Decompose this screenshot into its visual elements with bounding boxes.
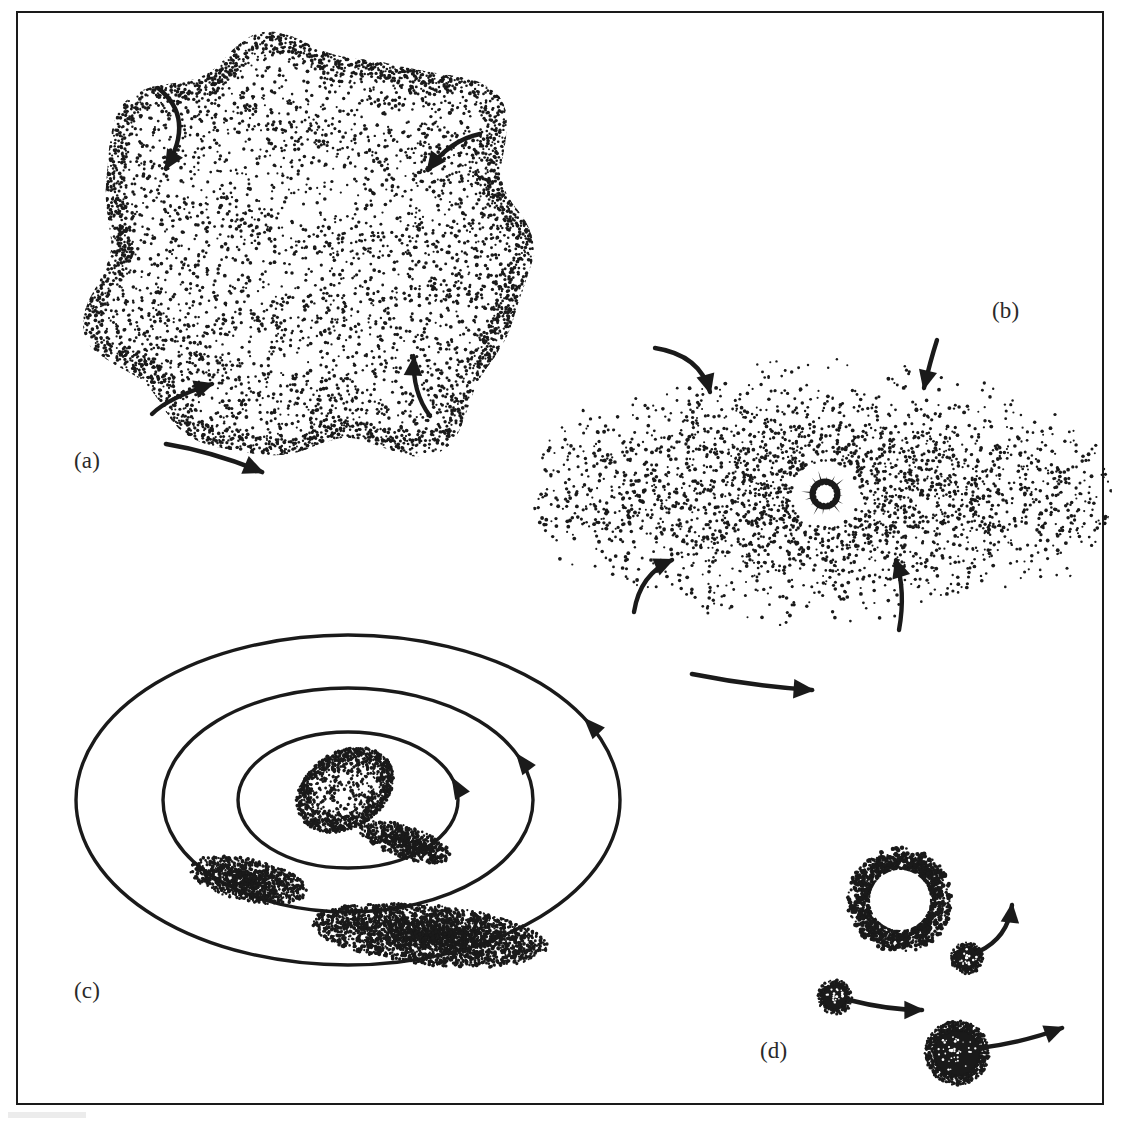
planet-large-lower-speckle bbox=[954, 1057, 956, 1059]
planet-small-left bbox=[817, 978, 854, 1015]
planet-small-left-speckle bbox=[833, 992, 836, 995]
planet-large-lower-speckle bbox=[937, 1048, 939, 1050]
panel-b-protoplanetary-disk bbox=[533, 340, 1113, 698]
planet-small-left-speckle bbox=[834, 996, 836, 998]
planet-large-lower-speckle bbox=[968, 1047, 970, 1049]
planet-small-upper-speckle bbox=[975, 956, 978, 959]
planet-large-lower-speckle bbox=[962, 1041, 963, 1042]
planet-small-upper-speckle bbox=[972, 959, 975, 962]
planet-large-lower-speckle bbox=[948, 1060, 949, 1061]
panel-label-d: (d) bbox=[760, 1038, 787, 1064]
planet-large-lower-speckle bbox=[955, 1061, 957, 1063]
planet-large-lower-speckle bbox=[965, 1065, 967, 1067]
planet-large-lower-speckle bbox=[944, 1053, 946, 1055]
panel-a-protostellar-cloud bbox=[72, 19, 542, 474]
panel-label-b: (b) bbox=[992, 298, 1019, 324]
planet-large-lower-speckle bbox=[952, 1036, 954, 1038]
planet-small-upper-speckle bbox=[967, 961, 969, 963]
planet-large-lower-speckle bbox=[938, 1053, 940, 1055]
planet-large-lower bbox=[924, 1019, 991, 1086]
planet-large-lower-speckle bbox=[942, 1058, 945, 1061]
planet-motion-arrow-lower-head bbox=[1042, 1026, 1064, 1043]
figure-root: (a) (b) (c) (d) bbox=[0, 0, 1121, 1125]
planet-small-left-speckle bbox=[832, 997, 834, 999]
planet-large-lower-speckle bbox=[956, 1052, 958, 1054]
planet-small-left-speckle bbox=[832, 999, 834, 1001]
page-edge-smudge bbox=[8, 1112, 86, 1118]
planet-large-lower-speckle bbox=[957, 1056, 959, 1058]
planet-large-lower-speckle bbox=[968, 1051, 970, 1053]
rotation-arrow-bottom-right bbox=[404, 355, 430, 416]
planet-large-lower-speckle bbox=[969, 1041, 971, 1043]
planet-small-left-speckle bbox=[838, 998, 840, 1000]
planet-large-lower-speckle bbox=[955, 1038, 957, 1040]
planet-large-lower-speckle bbox=[950, 1068, 951, 1069]
infall-arrow-top-right-head bbox=[919, 369, 937, 391]
planet-small-left-speckle bbox=[826, 994, 828, 996]
planet-small-left-speckle bbox=[841, 989, 843, 991]
planet-large-lower-speckle bbox=[953, 1048, 956, 1051]
planet-motion-arrow-left-head bbox=[904, 1001, 924, 1019]
planet-small-left-speckle bbox=[837, 989, 839, 991]
panel-label-c: (c) bbox=[74, 978, 100, 1004]
planet-large-lower-speckle bbox=[957, 1039, 960, 1042]
protostar bbox=[801, 471, 844, 515]
planet-small-left-speckle bbox=[834, 1001, 836, 1003]
planet-large-lower-speckle bbox=[950, 1050, 953, 1053]
planet-large-lower-speckle bbox=[942, 1039, 944, 1041]
young-star-with-dust-ring bbox=[846, 846, 953, 952]
planet-large-lower-speckle bbox=[954, 1040, 957, 1043]
planet-large-lower-speckle bbox=[958, 1050, 960, 1052]
planet-small-upper-speckle bbox=[965, 948, 968, 951]
planet-large-lower-speckle bbox=[974, 1047, 976, 1049]
planet-small-upper-speckle bbox=[961, 960, 963, 962]
planet-small-upper-speckle bbox=[962, 962, 964, 964]
planet-large-lower-speckle bbox=[946, 1040, 947, 1041]
planet-large-lower-speckle bbox=[953, 1050, 955, 1052]
planet-small-upper-speckle bbox=[963, 953, 965, 955]
infall-arrow-bottom-right bbox=[892, 558, 910, 631]
infall-arrow-top-right bbox=[919, 340, 937, 391]
dust-clump-middle bbox=[186, 846, 312, 914]
planet-motion-arrow-upper bbox=[978, 902, 1019, 952]
planet-small-left-speckle bbox=[830, 989, 832, 991]
planet-large-lower-speckle bbox=[957, 1060, 959, 1062]
planet-large-lower-speckle bbox=[948, 1046, 950, 1048]
planet-small-upper-speckle bbox=[975, 959, 976, 960]
planet-large-lower-speckle bbox=[943, 1049, 945, 1051]
infall-arrow-top-left bbox=[655, 348, 714, 395]
infall-arrow-bottom-left bbox=[634, 559, 674, 612]
rotation-arrow-top-left bbox=[158, 88, 183, 170]
disk-spin-direction-arrow bbox=[692, 674, 815, 698]
cloud-stipple-a bbox=[72, 19, 542, 469]
panel-label-a: (a) bbox=[74, 448, 100, 474]
planet-small-left-speckle bbox=[841, 995, 844, 998]
orbit-ring-inner-direction-arrowhead bbox=[451, 777, 470, 800]
planet-large-lower-speckle bbox=[943, 1041, 945, 1043]
figure-canvas bbox=[0, 0, 1121, 1125]
planet-large-lower-speckle bbox=[947, 1068, 949, 1070]
orbit-ring-outer bbox=[76, 635, 620, 965]
protostar-core-hole bbox=[818, 487, 832, 501]
planet-small-upper-speckle bbox=[968, 955, 971, 958]
panel-c-orbital-rings bbox=[76, 635, 620, 979]
planet-motion-arrow-lower bbox=[980, 1026, 1065, 1048]
planet-small-upper bbox=[950, 942, 984, 976]
infall-arrow-top-left-shaft bbox=[655, 348, 710, 392]
planet-motion-arrow-left bbox=[849, 1000, 925, 1019]
panel-d-young-planetary-system bbox=[817, 846, 1065, 1087]
planet-large-lower-speckle bbox=[960, 1051, 962, 1053]
disk-spin-direction-arrow-head bbox=[793, 679, 815, 698]
young-star-with-dust-ring-stellar-disc bbox=[870, 870, 930, 930]
planet-small-left-speckle bbox=[836, 995, 839, 998]
planet-large-lower-speckle bbox=[950, 1057, 952, 1059]
planet-small-left-speckle bbox=[835, 999, 837, 1001]
orbit-ring-middle-direction-arrowhead bbox=[516, 753, 536, 776]
planet-small-upper-speckle bbox=[965, 956, 967, 958]
orbit-ring-outer-direction-arrowhead bbox=[584, 718, 605, 740]
planet-small-upper-speckle bbox=[965, 961, 967, 963]
